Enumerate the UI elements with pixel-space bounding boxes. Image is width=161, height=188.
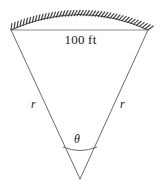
radius-line-left	[11, 30, 80, 179]
chord-length-label: 100 ft	[0, 33, 161, 46]
radius-label-left: r	[31, 98, 36, 110]
hatch-tick	[71, 10, 74, 16]
arc-hatch-marks	[11, 10, 154, 30]
hatch-tick	[74, 10, 77, 16]
hatch-tick	[59, 11, 62, 17]
hatch-tick	[68, 10, 71, 16]
angle-theta-label: θ	[74, 133, 80, 145]
radius-label-right: r	[120, 98, 125, 110]
radius-line-right	[80, 30, 148, 179]
sector-diagram: 100 ft r r θ	[0, 0, 161, 188]
hatch-tick	[56, 11, 59, 17]
diagram-canvas	[0, 0, 161, 188]
hatch-tick	[11, 23, 12, 30]
angle-arc	[63, 147, 97, 151]
hatch-tick	[62, 11, 65, 17]
hatch-tick	[65, 10, 68, 16]
